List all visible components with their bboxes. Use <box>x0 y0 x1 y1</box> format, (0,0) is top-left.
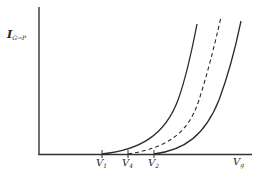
curve-left <box>102 24 197 154</box>
tick-label-v1: V1 <box>96 158 107 169</box>
tick-label-v2: V2 <box>148 158 159 169</box>
y-axis-label: IG→P <box>7 29 26 41</box>
x-axis-label: Vg <box>233 157 244 168</box>
curve-right <box>154 21 241 154</box>
tick-label-v4: V4 <box>122 158 133 169</box>
diagram-canvas <box>0 0 258 178</box>
curve-middle <box>128 17 221 154</box>
